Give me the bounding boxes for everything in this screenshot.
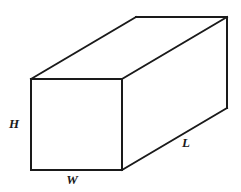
length-label: L (181, 135, 190, 150)
rectangular-prism-figure: H W L (0, 0, 241, 192)
figure-background (0, 0, 241, 192)
height-label: H (8, 116, 20, 131)
width-label: W (66, 172, 79, 187)
prism-drawing-canvas: H W L (0, 0, 241, 192)
